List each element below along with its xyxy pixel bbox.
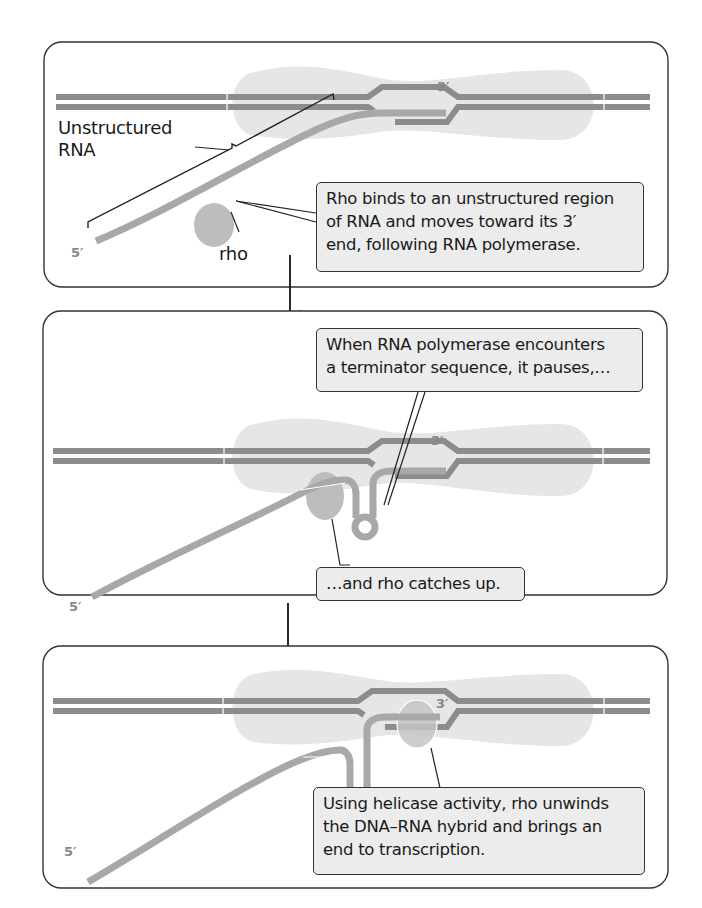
callout-line: the DNA–RNA hybrid and brings an xyxy=(323,815,636,838)
step-3-callout: Using helicase activity, rho unwinds the… xyxy=(313,787,645,875)
callout-line: Rho binds to an unstructured region xyxy=(326,187,635,210)
callout-line: When RNA polymerase encounters xyxy=(326,333,634,356)
unstructured-rna-label-line1: Unstructured xyxy=(58,117,172,139)
rho-protein xyxy=(397,700,437,748)
step-2-callout-catch-up: …and rho catches up. xyxy=(316,567,525,601)
callout-line: Using helicase activity, rho unwinds xyxy=(323,792,636,815)
three-prime-label: 3′ xyxy=(436,696,448,711)
callout-line: end to transcription. xyxy=(323,838,636,861)
unstructured-rna-label: Unstructured RNA xyxy=(58,117,172,161)
three-prime-label: 3′ xyxy=(431,433,443,448)
five-prime-label: 5′ xyxy=(64,844,76,859)
callout-line: end, following RNA polymerase. xyxy=(326,233,635,256)
rho-termination-diagram: Unstructured RNA rho 5′ 3′ Rho binds to … xyxy=(0,0,702,908)
rho-label: rho xyxy=(219,243,248,264)
step-1-callout: Rho binds to an unstructured region of R… xyxy=(316,182,644,272)
five-prime-label: 5′ xyxy=(69,599,81,614)
five-prime-label: 5′ xyxy=(71,245,83,260)
rho-protein xyxy=(194,203,234,247)
callout-line: a terminator sequence, it pauses,… xyxy=(326,356,634,379)
callout-line: of RNA and moves toward its 3′ xyxy=(326,210,635,233)
unstructured-rna-label-line2: RNA xyxy=(58,139,172,161)
callout-line: …and rho catches up. xyxy=(326,572,516,595)
step-2-callout-pause: When RNA polymerase encounters a termina… xyxy=(316,328,643,392)
three-prime-label: 3′ xyxy=(437,79,449,94)
